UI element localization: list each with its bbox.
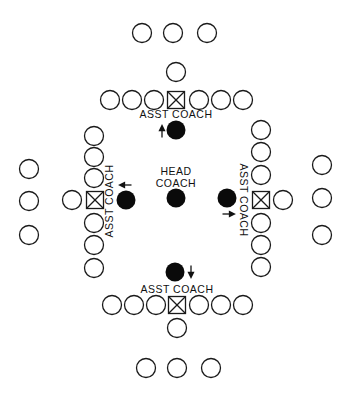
outer-player-top — [164, 24, 183, 43]
asst-coach-right — [218, 189, 237, 208]
outer-player-top — [198, 24, 217, 43]
center-bottom — [169, 297, 186, 314]
asst-coach-label-top: ASST COACH — [139, 108, 212, 120]
line-player-top — [190, 91, 209, 110]
drill-diagram: HEAD COACH ASST COACH ASST COACH ASST CO… — [0, 0, 348, 399]
center-right — [253, 192, 270, 209]
line-player-bottom — [103, 296, 122, 315]
center-left — [87, 192, 104, 209]
outer-player-bottom — [137, 359, 156, 378]
line-player-bottom — [147, 296, 166, 315]
line-player-right — [252, 121, 271, 140]
line-player-right — [252, 143, 271, 162]
asst-coach-label-left: ASST COACH — [103, 164, 115, 237]
arrow-head — [189, 273, 194, 278]
line-player-left — [85, 169, 104, 188]
line-player-left — [85, 148, 104, 167]
player-bottom-single — [168, 319, 187, 338]
outer-player-right — [313, 156, 332, 175]
arrow-down-icon — [189, 266, 194, 278]
asst-coach-label-right: ASST COACH — [238, 163, 250, 236]
head-coach-label-line2: COACH — [156, 177, 196, 189]
head-coach — [167, 189, 186, 208]
line-player-bottom — [234, 296, 253, 315]
arrow-head — [120, 183, 125, 188]
line-player-top — [212, 91, 231, 110]
line-player-left — [85, 127, 104, 146]
line-player-right — [252, 236, 271, 255]
line-player-top — [234, 91, 253, 110]
line-player-left — [85, 236, 104, 255]
arrow-up-icon — [160, 126, 165, 138]
arrow-head — [230, 212, 235, 217]
outer-player-top — [133, 24, 152, 43]
outer-player-left — [20, 160, 39, 179]
line-player-right — [252, 214, 271, 233]
asst-coach-top — [167, 121, 186, 140]
outer-player-bottom — [202, 359, 221, 378]
line-player-top — [145, 91, 164, 110]
asst-coach-left — [117, 191, 136, 210]
head-coach-label-line1: HEAD — [160, 165, 191, 177]
line-player-bottom — [212, 296, 231, 315]
arrow-left-icon — [120, 183, 132, 188]
coaches-layer — [117, 121, 237, 282]
player-right-single — [274, 191, 293, 210]
asst-coach-bottom — [166, 263, 185, 282]
arrow-head — [160, 126, 165, 131]
outer-player-bottom — [168, 359, 187, 378]
line-player-right — [252, 258, 271, 277]
line-player-bottom — [125, 296, 144, 315]
outer-player-right — [313, 226, 332, 245]
line-player-right — [252, 166, 271, 185]
center-top — [168, 92, 185, 109]
line-player-top — [101, 91, 120, 110]
outer-player-right — [313, 189, 332, 208]
player-left-single — [63, 191, 82, 210]
arrow-right-icon — [223, 212, 235, 217]
outer-player-left — [20, 192, 39, 211]
line-player-bottom — [190, 296, 209, 315]
line-player-left — [85, 214, 104, 233]
line-player-top — [123, 91, 142, 110]
player-top-single — [167, 63, 186, 82]
asst-coach-label-bottom: ASST COACH — [140, 283, 213, 295]
line-player-left — [85, 259, 104, 278]
outer-player-left — [20, 226, 39, 245]
